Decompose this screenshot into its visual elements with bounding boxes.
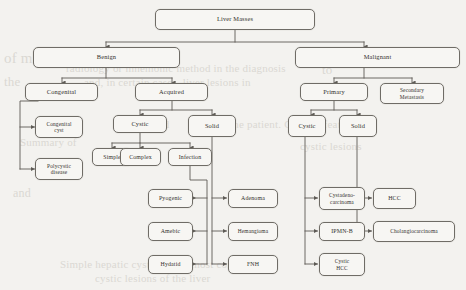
node-hcc[interactable]: HCC — [373, 188, 416, 209]
node-label-line2: Metastasis — [400, 94, 424, 100]
node-benign-cystic[interactable]: Cystic — [113, 115, 167, 133]
node-label-line2: carcinoma — [330, 199, 354, 205]
node-complex[interactable]: Complex — [120, 148, 161, 166]
node-label-line2: cyst — [54, 127, 63, 133]
node-label: Solid — [351, 123, 365, 130]
node-label: Cystic — [298, 123, 315, 130]
node-label-line2: HCC — [336, 265, 348, 271]
node-adenoma[interactable]: Adenoma — [228, 189, 278, 208]
node-label: Malignant — [364, 54, 392, 61]
node-label: Primary — [323, 89, 345, 96]
node-label: Complex — [129, 154, 152, 160]
node-label: Acquired — [159, 89, 184, 96]
node-label: FNH — [247, 261, 259, 267]
connector-layer — [0, 0, 466, 290]
node-label-line2: disease — [51, 169, 68, 175]
node-label: Solid — [205, 123, 219, 130]
node-hydatid[interactable]: Hydatid — [148, 255, 193, 274]
node-label: Simple — [103, 154, 121, 160]
node-hemangioma[interactable]: Hemangioma — [228, 222, 278, 241]
node-liver-masses[interactable]: Liver Masses — [155, 9, 315, 30]
node-congenital-cyst[interactable]: Congenital cyst — [35, 116, 83, 138]
node-malignant-solid[interactable]: Solid — [339, 115, 377, 137]
node-label: Congenital — [47, 89, 77, 96]
node-polycystic-disease[interactable]: Polycystic disease — [35, 158, 83, 180]
node-pyogenic[interactable]: Pyogenic — [148, 189, 193, 208]
node-congenital[interactable]: Congenital — [25, 83, 98, 101]
node-label: Benign — [97, 54, 116, 61]
node-label: Liver Masses — [217, 16, 253, 23]
node-label: Amebic — [161, 228, 181, 234]
node-malignant-cystic[interactable]: Cystic — [288, 115, 326, 137]
node-acquired[interactable]: Acquired — [135, 83, 208, 101]
node-label: Hydatid — [160, 261, 180, 267]
node-cholangiocarcinoma[interactable]: Cholangiocarcinoma — [373, 221, 455, 242]
node-benign[interactable]: Benign — [33, 47, 180, 68]
node-ipmn-b[interactable]: IPMN-B — [319, 222, 365, 241]
node-cystic-hcc[interactable]: Cystic HCC — [319, 253, 365, 276]
node-label: Adenoma — [241, 195, 265, 201]
figure-canvas: of malignantradiology or mnemonic method… — [0, 0, 466, 290]
node-fnh[interactable]: FNH — [228, 255, 278, 274]
node-label: Cystic — [131, 121, 148, 128]
node-label: Hemangioma — [238, 228, 269, 234]
node-cystadenocarcinoma[interactable]: Cystadeno- carcinoma — [319, 187, 365, 210]
node-label: Cholangiocarcinoma — [390, 228, 438, 234]
node-label: Pyogenic — [159, 195, 182, 201]
node-label: Infection — [179, 154, 202, 160]
node-infection[interactable]: Infection — [168, 148, 212, 166]
node-label: HCC — [388, 195, 401, 201]
node-secondary-metastasis[interactable]: Secondary Metastasis — [380, 83, 444, 104]
node-primary[interactable]: Primary — [300, 83, 368, 101]
node-label: IPMN-B — [331, 228, 353, 234]
node-malignant[interactable]: Malignant — [295, 47, 460, 68]
node-amebic[interactable]: Amebic — [148, 222, 193, 241]
node-benign-solid[interactable]: Solid — [188, 115, 236, 137]
